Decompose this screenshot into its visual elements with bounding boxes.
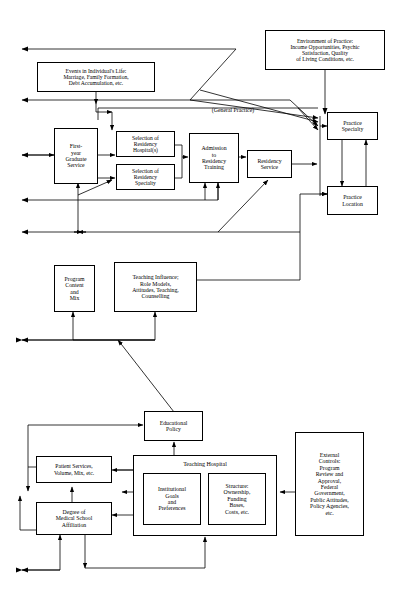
node-selection-residency-hospitals-label: Selection ofResidencyHospital(s): [119, 135, 172, 154]
node-external-controls: ExternalControls:ProgramReview andApprov…: [295, 432, 364, 536]
node-practice-location: PracticeLocation: [327, 186, 378, 215]
node-external-controls-label: ExternalControls:ProgramReview andApprov…: [298, 452, 361, 517]
node-admission-residency-training-label: AdmissiontoResidencyTraining: [192, 145, 236, 171]
node-program-content-mix-label: ProgramContentandMix: [57, 276, 92, 302]
group-teaching-hospital-title: Teaching Hospital: [133, 461, 277, 467]
node-first-year-graduate-service-label: First-yearGraduateService: [57, 143, 95, 169]
node-environment-of-practice-label: Environment of Practice:Income Opportuni…: [268, 38, 382, 63]
node-teaching-influence: Teaching Influence;Role Models,Attitudes…: [114, 262, 197, 312]
node-structure-ownership-label: Structure:Ownership,FundingBases,Costs, …: [211, 483, 263, 515]
node-practice-specialty: PracticeSpecialty: [327, 112, 378, 140]
node-first-year-graduate-service: First-yearGraduateService: [54, 128, 98, 184]
node-selection-residency-specialty-label: Selection ofResidencySpecialty: [119, 168, 172, 187]
node-institutional-goals-label: InstitutionalGoalsandPreferences: [146, 486, 198, 512]
label-general-practice: (General Practice): [198, 107, 268, 113]
node-practice-location-label: PracticeLocation: [330, 194, 375, 207]
node-patient-services-label: Patient Services,Volume, Mix, etc.: [39, 463, 109, 476]
diagram-canvas: Environment of Practice:Income Opportuni…: [0, 0, 402, 599]
node-patient-services: Patient Services,Volume, Mix, etc.: [36, 456, 112, 483]
node-residency-service: ResidencyService: [247, 150, 292, 178]
node-events-individual-life: Events in Individual's Life:Marriage, Fa…: [37, 62, 155, 92]
node-admission-residency-training: AdmissiontoResidencyTraining: [189, 133, 239, 183]
node-educational-policy-label: EducationalPolicy: [147, 420, 200, 433]
node-program-content-mix: ProgramContentandMix: [54, 265, 95, 312]
node-events-individual-life-label: Events in Individual's Life:Marriage, Fa…: [40, 68, 152, 87]
node-teaching-influence-label: Teaching Influence;Role Models,Attitudes…: [117, 274, 194, 300]
node-residency-service-label: ResidencyService: [250, 158, 289, 171]
node-structure-ownership: Structure:Ownership,FundingBases,Costs, …: [208, 473, 266, 525]
node-environment-of-practice: Environment of Practice:Income Opportuni…: [265, 30, 385, 70]
node-degree-medical-school-affiliation: Degree ofMedical SchoolAffiliation: [36, 502, 112, 535]
node-selection-residency-hospitals: Selection ofResidencyHospital(s): [116, 131, 175, 157]
node-educational-policy: EducationalPolicy: [144, 411, 203, 441]
node-practice-specialty-label: PracticeSpecialty: [330, 120, 375, 133]
node-selection-residency-specialty: Selection ofResidencySpecialty: [116, 164, 175, 190]
node-institutional-goals: InstitutionalGoalsandPreferences: [143, 473, 201, 525]
node-degree-medical-school-affiliation-label: Degree ofMedical SchoolAffiliation: [39, 509, 109, 528]
